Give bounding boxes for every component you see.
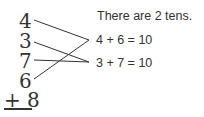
addend-1: 4 (19, 11, 32, 31)
equation-2: 3 + 7 = 10 (96, 56, 152, 70)
addend-5: + 8 (4, 90, 40, 110)
sum-underline (4, 108, 32, 110)
addend-3: 7 (19, 51, 32, 71)
equation-1: 4 + 6 = 10 (96, 33, 152, 47)
addend-2: 3 (19, 31, 32, 51)
addition-diagram: 4 3 7 6 + 8 There are 2 tens. 4 + 6 = 10… (0, 0, 204, 117)
tens-statement: There are 2 tens. (97, 9, 192, 23)
